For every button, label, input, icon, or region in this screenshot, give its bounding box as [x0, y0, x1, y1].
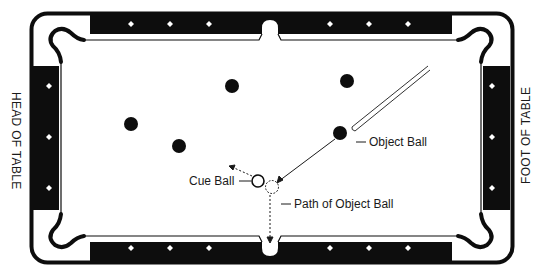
ball — [340, 74, 354, 88]
ball — [124, 117, 138, 131]
right-rail — [483, 66, 510, 210]
object-ball — [333, 126, 347, 140]
pool-table-diagram: Cue Ball Object Ball Path of Object Ball… — [0, 0, 542, 276]
table-frame — [32, 14, 513, 263]
ball — [225, 79, 239, 93]
left-rail — [33, 66, 59, 210]
object-ball-label: Object Ball — [369, 135, 427, 149]
ball — [172, 139, 186, 153]
path-of-object-ball-label: Path of Object Ball — [294, 197, 393, 211]
cue-ball-label: Cue Ball — [189, 174, 234, 188]
cue-ball — [252, 175, 264, 187]
foot-of-table-label: FOOT OF TABLE — [519, 87, 533, 184]
head-of-table-label: HEAD OF TABLE — [9, 92, 23, 189]
